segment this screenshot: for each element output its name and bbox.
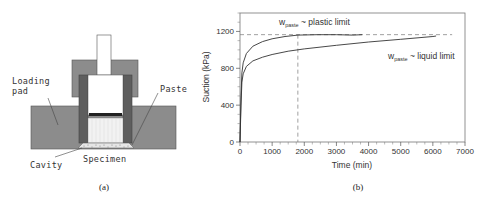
series-line-0 bbox=[240, 35, 362, 142]
y-axis-title: Suction (kPa) bbox=[201, 51, 211, 102]
svg-text:0: 0 bbox=[230, 138, 235, 147]
svg-text:1200: 1200 bbox=[216, 27, 234, 36]
specimen-layer bbox=[78, 143, 134, 148]
tube-wall-right bbox=[123, 75, 132, 143]
svg-text:7000: 7000 bbox=[456, 147, 474, 156]
suction-time-chart: 0100020003000400050006000700004008001200… bbox=[200, 0, 487, 204]
x-axis-title: Time (min) bbox=[332, 160, 372, 170]
svg-text:6000: 6000 bbox=[424, 147, 442, 156]
label-specimen: Specimen bbox=[83, 154, 126, 164]
label-cavity: Cavity bbox=[30, 160, 63, 170]
svg-text:0: 0 bbox=[238, 147, 243, 156]
inner-chamber bbox=[88, 75, 123, 115]
svg-text:4000: 4000 bbox=[360, 147, 378, 156]
svg-text:400: 400 bbox=[221, 101, 235, 110]
label-pad: pad bbox=[12, 86, 28, 96]
caption-a: (a) bbox=[99, 182, 109, 192]
lower-chamber bbox=[88, 118, 123, 143]
svg-text:3000: 3000 bbox=[328, 147, 346, 156]
label-paste: Paste bbox=[160, 84, 187, 94]
label-loading: Loading bbox=[12, 76, 50, 86]
piston-plate bbox=[89, 113, 122, 116]
annotation-liquid-limit: wpaste ~ liquid limit bbox=[387, 51, 455, 62]
plot-frame bbox=[240, 13, 465, 142]
schematic-panel-a: Loading pad Paste Cavity Specimen (a) bbox=[0, 0, 200, 204]
chart-panel-b: 0100020003000400050006000700004008001200… bbox=[200, 0, 487, 204]
svg-text:1000: 1000 bbox=[263, 147, 281, 156]
caption-b: (b) bbox=[353, 182, 364, 192]
tube-wall-left bbox=[79, 75, 88, 143]
annotation-plastic-limit: wpaste ~ plastic limit bbox=[278, 17, 350, 28]
svg-text:800: 800 bbox=[221, 64, 235, 73]
apparatus-diagram: Loading pad Paste Cavity Specimen (a) bbox=[0, 0, 200, 204]
shaft bbox=[97, 35, 111, 75]
svg-text:5000: 5000 bbox=[392, 147, 410, 156]
svg-text:2000: 2000 bbox=[295, 147, 313, 156]
leader-cavity bbox=[55, 148, 82, 157]
